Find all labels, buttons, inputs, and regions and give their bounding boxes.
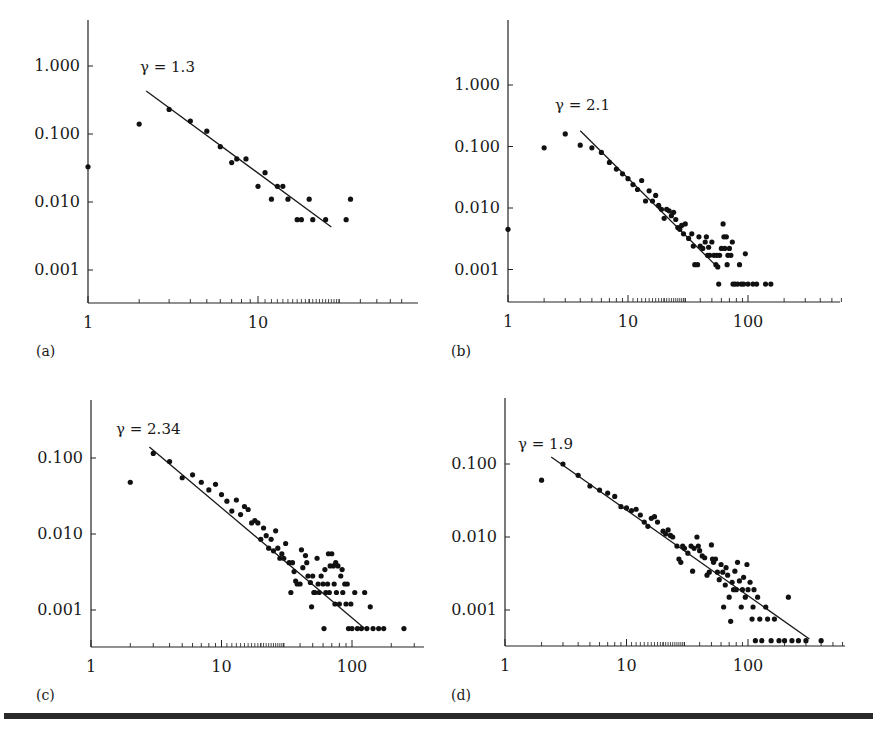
data-point bbox=[258, 537, 263, 542]
x-tick-label: 10 bbox=[248, 313, 268, 332]
gamma-annotation: γ = 2.1 bbox=[555, 96, 610, 114]
data-point bbox=[255, 184, 260, 189]
data-point bbox=[334, 590, 339, 595]
data-point bbox=[749, 617, 754, 622]
data-point bbox=[264, 533, 269, 538]
data-point bbox=[662, 216, 667, 221]
data-point bbox=[653, 193, 658, 198]
data-point bbox=[717, 577, 722, 582]
data-point bbox=[725, 573, 730, 578]
data-point bbox=[505, 227, 510, 232]
data-point bbox=[782, 638, 787, 643]
x-tick-label: 10 bbox=[616, 656, 636, 675]
data-point bbox=[337, 601, 342, 606]
data-point bbox=[695, 262, 700, 267]
y-tick-label: 0.001 bbox=[451, 600, 497, 619]
data-point bbox=[745, 281, 750, 286]
data-point bbox=[300, 565, 305, 570]
data-point bbox=[327, 590, 332, 595]
data-point bbox=[234, 156, 239, 161]
data-point bbox=[322, 567, 327, 572]
data-point bbox=[348, 197, 353, 202]
data-point bbox=[625, 176, 630, 181]
power-law-fit-line bbox=[149, 447, 364, 629]
data-point bbox=[279, 551, 284, 556]
y-tick-label: 0.001 bbox=[37, 600, 83, 619]
data-point bbox=[199, 480, 204, 485]
data-point bbox=[650, 198, 655, 203]
data-point bbox=[647, 188, 652, 193]
data-point bbox=[368, 604, 373, 609]
figure: 1101.0000.1000.0100.001γ = 1.3(a) 110100… bbox=[0, 0, 873, 742]
data-point bbox=[765, 617, 770, 622]
data-point bbox=[401, 626, 406, 631]
data-point bbox=[730, 580, 735, 585]
panel-label: (a) bbox=[36, 343, 55, 359]
data-point bbox=[275, 546, 280, 551]
data-point bbox=[167, 459, 172, 464]
data-point bbox=[180, 475, 185, 480]
data-point bbox=[768, 281, 773, 286]
data-point bbox=[614, 166, 619, 171]
data-point bbox=[275, 184, 280, 189]
data-point bbox=[776, 638, 781, 643]
data-point bbox=[696, 544, 701, 549]
data-point bbox=[229, 160, 234, 165]
y-tick-label: 0.001 bbox=[454, 260, 500, 279]
data-point bbox=[204, 129, 209, 134]
panel-d: 1101000.1000.0100.001γ = 1.9(d) bbox=[451, 398, 845, 703]
data-point bbox=[314, 556, 319, 561]
data-point bbox=[685, 551, 690, 556]
data-point bbox=[560, 461, 565, 466]
data-point bbox=[348, 601, 353, 606]
data-point bbox=[634, 507, 639, 512]
data-point bbox=[754, 281, 759, 286]
data-point bbox=[674, 544, 679, 549]
panel-a: 1101.0000.1000.0100.001γ = 1.3(a) bbox=[34, 20, 418, 359]
data-point bbox=[269, 197, 274, 202]
data-point bbox=[376, 626, 381, 631]
data-point bbox=[763, 281, 768, 286]
data-point bbox=[670, 534, 675, 539]
data-point bbox=[612, 494, 617, 499]
data-point bbox=[271, 548, 276, 553]
y-tick-label: 0.100 bbox=[451, 454, 497, 473]
data-point bbox=[671, 210, 676, 215]
data-point bbox=[690, 569, 695, 574]
data-point bbox=[299, 547, 304, 552]
data-point bbox=[370, 626, 375, 631]
data-point bbox=[638, 512, 643, 517]
data-point bbox=[291, 569, 296, 574]
data-point bbox=[539, 478, 544, 483]
data-point bbox=[618, 504, 623, 509]
panel-b: 1101001.0000.1000.0100.001γ = 2.1(b) bbox=[451, 20, 841, 359]
data-point bbox=[753, 638, 758, 643]
data-point bbox=[652, 514, 657, 519]
data-point bbox=[359, 626, 364, 631]
data-point bbox=[297, 581, 302, 586]
data-point bbox=[224, 499, 229, 504]
data-point bbox=[620, 171, 625, 176]
x-tick-label: 1 bbox=[503, 312, 513, 331]
data-point bbox=[728, 253, 733, 258]
data-point bbox=[709, 542, 714, 547]
data-point bbox=[607, 160, 612, 165]
x-tick-label: 100 bbox=[733, 312, 764, 331]
x-tick-label: 100 bbox=[337, 657, 368, 676]
data-point bbox=[730, 239, 735, 244]
data-point bbox=[290, 560, 295, 565]
panel-label: (b) bbox=[451, 343, 471, 359]
data-point bbox=[728, 619, 733, 624]
data-point bbox=[725, 262, 730, 267]
data-point bbox=[629, 508, 634, 513]
y-tick-label: 0.010 bbox=[34, 192, 80, 211]
data-point bbox=[697, 548, 702, 553]
data-point bbox=[151, 451, 156, 456]
data-point bbox=[229, 509, 234, 514]
data-point bbox=[727, 246, 732, 251]
data-point bbox=[739, 604, 744, 609]
data-point bbox=[735, 560, 740, 565]
data-point bbox=[740, 587, 745, 592]
data-point bbox=[702, 555, 707, 560]
data-point bbox=[734, 587, 739, 592]
